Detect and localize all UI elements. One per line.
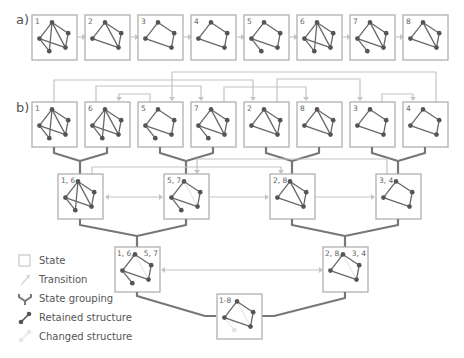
- svg-text:3, 4: 3, 4: [379, 176, 394, 185]
- svg-text:1: 1: [35, 104, 40, 113]
- state-a-8[interactable]: 8: [403, 15, 448, 60]
- svg-text:2: 2: [247, 104, 252, 113]
- state-b-5[interactable]: 5: [138, 102, 183, 147]
- svg-text:7: 7: [194, 104, 199, 113]
- row-b-states: 1 6 5 7 2 8 3: [32, 102, 448, 147]
- state-a-7[interactable]: 7: [350, 15, 395, 60]
- svg-text:7: 7: [353, 17, 358, 26]
- state-a-3[interactable]: 3: [138, 15, 183, 60]
- legend-item-state: State: [19, 255, 65, 266]
- svg-text:Changed structure: Changed structure: [39, 331, 132, 342]
- svg-text:5, 7: 5, 7: [167, 176, 182, 185]
- state-a-1[interactable]: 1: [32, 15, 77, 60]
- svg-text:Retained structure: Retained structure: [39, 312, 132, 323]
- state-grouping-icon: [19, 294, 31, 305]
- state-group-1-6-5-7[interactable]: 1, 6, 5, 7: [115, 247, 160, 292]
- state-b-4[interactable]: 4: [403, 102, 448, 147]
- state-a-5[interactable]: 5: [244, 15, 289, 60]
- legend-item-transition: Transition: [21, 274, 87, 285]
- svg-text:2, 8: 2, 8: [273, 176, 288, 185]
- state-box-icon: [19, 255, 30, 266]
- svg-text:2, 8,: 2, 8,: [325, 249, 342, 258]
- svg-text:6: 6: [88, 104, 93, 113]
- grouping-brackets-level2: [80, 219, 398, 247]
- grouping-brackets-level1: [54, 147, 425, 174]
- state-root-1-8[interactable]: 1-8: [217, 294, 262, 339]
- state-group-3-4[interactable]: 3, 4: [376, 174, 421, 219]
- state-b-7[interactable]: 7: [191, 102, 236, 147]
- svg-text:State grouping: State grouping: [39, 293, 113, 304]
- legend-item-retained-structure: Retained structure: [19, 312, 132, 325]
- svg-text:5, 7: 5, 7: [144, 249, 159, 258]
- state-b-6[interactable]: 6: [85, 102, 130, 147]
- svg-text:4: 4: [406, 104, 411, 113]
- transition-arrow-icon: [21, 275, 30, 285]
- retained-structure-icon: [19, 312, 32, 325]
- section-a-label: a): [16, 12, 29, 27]
- state-b-3[interactable]: 3: [350, 102, 395, 147]
- svg-text:8: 8: [300, 104, 305, 113]
- state-b-2[interactable]: 2: [244, 102, 289, 147]
- state-diagram: a) 1 2 3 4: [0, 0, 464, 358]
- svg-text:3, 4: 3, 4: [352, 249, 367, 258]
- svg-text:3: 3: [353, 104, 358, 113]
- state-b-1[interactable]: 1: [32, 102, 77, 147]
- svg-text:8: 8: [406, 17, 411, 26]
- svg-text:6: 6: [300, 17, 305, 26]
- state-a-2[interactable]: 2: [85, 15, 130, 60]
- svg-text:1, 6: 1, 6: [61, 176, 76, 185]
- state-group-5-7[interactable]: 5, 7: [164, 174, 209, 219]
- legend-item-state-grouping: State grouping: [19, 293, 113, 305]
- state-group-2-8[interactable]: 2, 8: [270, 174, 315, 219]
- changed-structure-icon: [19, 330, 32, 343]
- svg-text:State: State: [39, 255, 65, 266]
- svg-text:4: 4: [194, 17, 199, 26]
- svg-text:Transition: Transition: [38, 274, 87, 285]
- svg-text:2: 2: [88, 17, 93, 26]
- level2-transitions: [92, 159, 387, 200]
- svg-text:5: 5: [247, 17, 252, 26]
- state-b-8[interactable]: 8: [297, 102, 342, 147]
- state-group-1-6[interactable]: 1, 6: [58, 174, 103, 219]
- state-a-4[interactable]: 4: [191, 15, 236, 60]
- legend-item-changed-structure: Changed structure: [19, 330, 133, 343]
- svg-text:3: 3: [141, 17, 146, 26]
- svg-text:1-8: 1-8: [219, 296, 231, 305]
- svg-text:1: 1: [35, 17, 40, 26]
- svg-text:1, 6,: 1, 6,: [117, 249, 134, 258]
- svg-text:5: 5: [141, 104, 146, 113]
- state-a-6[interactable]: 6: [297, 15, 342, 60]
- state-group-2-8-3-4[interactable]: 2, 8, 3, 4: [323, 247, 368, 292]
- level3-transitions: [161, 267, 323, 273]
- section-b-label: b): [16, 100, 29, 115]
- row-a-sequence: 1 2 3 4 5 6 7: [32, 15, 448, 60]
- row-b-transitions: [54, 72, 436, 102]
